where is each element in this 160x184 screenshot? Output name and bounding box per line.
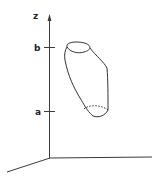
solid-shape <box>65 42 108 117</box>
z-axis-label: z <box>33 11 38 21</box>
tick-label-b: b <box>34 43 41 53</box>
solid-diagram: z b a <box>0 0 160 184</box>
x-axis <box>7 158 50 172</box>
top-cap-ellipse <box>67 47 90 53</box>
coordinate-axes <box>7 14 152 172</box>
tick-label-a: a <box>35 107 41 117</box>
solid-outline <box>65 42 108 117</box>
y-axis <box>50 157 152 158</box>
z-axis-arrowhead-icon <box>48 14 52 21</box>
